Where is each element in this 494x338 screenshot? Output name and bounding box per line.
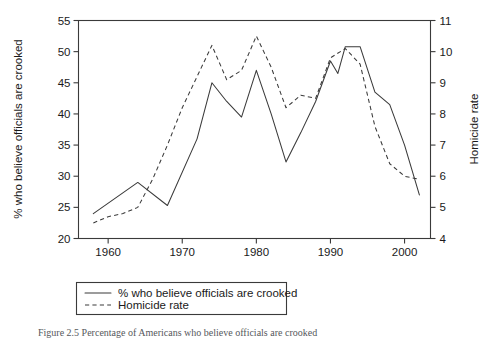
line-chart: 2025303540455055 4567891011 196019701980… — [0, 0, 494, 338]
y-axis-left: 2025303540455055 — [58, 15, 79, 245]
y-ticklabel-left-7: 55 — [58, 15, 71, 27]
x-ticklabel-2: 1980 — [244, 246, 270, 258]
y-ticklabel-right-7: 11 — [440, 15, 452, 27]
y-ticklabel-right-6: 10 — [440, 46, 453, 58]
y-ticklabel-right-4: 8 — [440, 108, 446, 120]
y-ticklabel-left-5: 45 — [58, 77, 71, 89]
x-ticklabel-3: 1990 — [318, 246, 344, 258]
series-line-0 — [93, 47, 419, 214]
legend-label-1: Homicide rate — [118, 299, 189, 311]
legend-label-0: % who believe officials are crooked — [118, 287, 297, 299]
chart-legend[interactable]: % who believe officials are crooked Homi… — [77, 283, 298, 315]
y-axis-left-title: % who believe officials are crooked — [12, 39, 24, 218]
plot-frame — [79, 21, 431, 239]
x-ticklabel-1: 1970 — [169, 246, 195, 258]
y-ticklabel-left-1: 25 — [58, 201, 71, 213]
y-ticklabel-left-2: 30 — [58, 170, 71, 182]
y-ticklabel-right-5: 9 — [440, 77, 446, 89]
series-lines — [93, 36, 419, 223]
series-line-1 — [93, 36, 419, 223]
x-ticklabel-4: 2000 — [392, 246, 418, 258]
x-axis: 19601970198019902000 — [95, 239, 417, 258]
figure-caption: Figure 2.5 Percentage of Americans who b… — [38, 327, 317, 338]
y-ticklabel-left-6: 50 — [58, 46, 71, 58]
y-ticklabel-left-3: 35 — [58, 139, 71, 151]
y-ticklabel-right-1: 5 — [440, 201, 446, 213]
y-ticklabel-left-0: 20 — [58, 233, 71, 245]
x-ticklabel-0: 1960 — [95, 246, 121, 258]
y-axis-right: 4567891011 — [431, 15, 453, 245]
y-ticklabel-right-2: 6 — [440, 170, 446, 182]
figure-container: 2025303540455055 4567891011 196019701980… — [0, 0, 494, 338]
y-ticklabel-left-4: 40 — [58, 108, 71, 120]
y-axis-right-title: Homicide rate — [468, 94, 480, 165]
y-ticklabel-right-0: 4 — [440, 233, 447, 245]
y-ticklabel-right-3: 7 — [440, 139, 446, 151]
